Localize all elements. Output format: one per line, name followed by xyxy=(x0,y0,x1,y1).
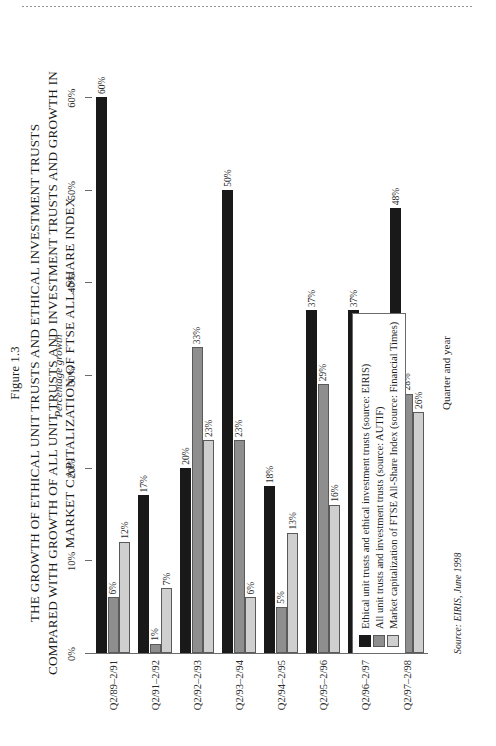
bar xyxy=(222,190,233,653)
legend-label: Ethical unit trusts and ethical investme… xyxy=(360,364,371,629)
bar-value-label: 29% xyxy=(318,364,328,381)
category-label: Q2/92–2/93 xyxy=(192,660,203,710)
figure-title-line-1: THE GROWTH OF ETHICAL UNIT TRUSTS AND ET… xyxy=(26,0,44,746)
bar-value-label: 37% xyxy=(349,290,359,307)
bar-value-label: 7% xyxy=(162,572,172,585)
axis-tick xyxy=(85,560,92,561)
bar-value-label: 6% xyxy=(246,582,256,595)
bar-group: Q2/89–2/9160%6%12% xyxy=(92,98,134,654)
bar xyxy=(276,607,287,653)
x-axis-label-text: Quarter and year xyxy=(440,336,452,410)
bar-group: Q2/91–2/9217%1%7% xyxy=(134,98,176,654)
bar xyxy=(108,597,119,653)
bar xyxy=(306,310,317,653)
legend-item: Ethical unit trusts and ethical investme… xyxy=(358,322,372,647)
bar xyxy=(287,533,298,653)
bar xyxy=(180,468,191,653)
bar-group: Q2/92–2/9320%33%23% xyxy=(176,98,218,654)
legend-label: All unit trusts and investment trusts (s… xyxy=(374,406,385,629)
bar-value-label: 26% xyxy=(414,392,424,409)
category-label: Q2/95–2/96 xyxy=(318,660,329,710)
bar-value-label: 16% xyxy=(330,484,340,501)
axis-tick xyxy=(85,190,92,191)
bar-value-label: 6% xyxy=(108,582,118,595)
category-label: Q2/94–2/95 xyxy=(276,660,287,710)
axis-tick-label: 0% xyxy=(66,647,77,661)
category-label: Q2/91–2/92 xyxy=(150,660,161,710)
category-label: Q2/96–2/97 xyxy=(360,660,371,710)
bar-value-label: 13% xyxy=(288,512,298,529)
bar-value-label: 12% xyxy=(120,521,130,538)
category-label: Q2/89–2/91 xyxy=(108,660,119,710)
bar-group: Q2/93–2/9450%23%6% xyxy=(218,98,260,654)
bar-value-label: 17% xyxy=(139,475,149,492)
bar-value-label: 60% xyxy=(97,77,107,94)
axis-tick xyxy=(85,375,92,376)
bar xyxy=(413,412,424,653)
bar xyxy=(138,495,149,653)
bar xyxy=(264,486,275,653)
bar xyxy=(329,505,340,653)
axis-tick xyxy=(85,282,92,283)
category-label: Q2/97–2/98 xyxy=(402,660,413,710)
legend-item: All unit trusts and investment trusts (s… xyxy=(372,322,386,647)
bar-value-label: 37% xyxy=(307,290,317,307)
bar-value-label: 23% xyxy=(234,419,244,436)
bar xyxy=(192,347,203,653)
axis-tick xyxy=(85,653,92,654)
bar xyxy=(203,440,214,653)
legend-swatch xyxy=(359,635,371,647)
bar-value-label: 20% xyxy=(181,447,191,464)
figure-page: Figure 1.3 THE GROWTH OF ETHICAL UNIT TR… xyxy=(0,0,496,746)
bar xyxy=(119,542,130,653)
figure-number: Figure 1.3 xyxy=(8,0,23,746)
bar-value-label: 50% xyxy=(223,169,233,186)
axis-tick-label: 20% xyxy=(66,459,77,478)
legend-item: Market capitalization of FTSE All-Share … xyxy=(386,322,400,647)
bar xyxy=(96,97,107,653)
bar-value-label: 18% xyxy=(265,466,275,483)
bar-value-label: 33% xyxy=(192,327,202,344)
bar xyxy=(150,644,161,653)
legend-label: Market capitalization of FTSE All-Share … xyxy=(388,322,399,629)
axis-tick-label: 30% xyxy=(66,366,77,385)
bar-value-label: 5% xyxy=(276,591,286,604)
bar xyxy=(318,384,329,653)
bar-group: Q2/95–2/9637%29%16% xyxy=(302,98,344,654)
x-axis-label: Quarter and year xyxy=(440,0,452,746)
axis-tick-label: 40% xyxy=(66,274,77,293)
axis-tick-label: 50% xyxy=(66,181,77,200)
legend-swatch xyxy=(387,635,399,647)
bar xyxy=(161,588,172,653)
legend-swatch xyxy=(373,635,385,647)
axis-tick xyxy=(85,97,92,98)
bar xyxy=(245,597,256,653)
axis-tick-label: 10% xyxy=(66,552,77,571)
bar xyxy=(234,440,245,653)
bar-value-label: 1% xyxy=(150,628,160,641)
category-label: Q2/93–2/94 xyxy=(234,660,245,710)
source-note: Source: EIRIS, June 1998 xyxy=(452,553,463,654)
chart-legend: Ethical unit trusts and ethical investme… xyxy=(352,313,406,654)
axis-tick xyxy=(85,468,92,469)
bar-group: Q2/94–2/9518%5%13% xyxy=(260,98,302,654)
bar-value-label: 48% xyxy=(391,188,401,205)
y-axis-label: Percentage growth xyxy=(52,98,64,654)
axis-tick-label: 60% xyxy=(66,88,77,107)
bar-value-label: 23% xyxy=(204,419,214,436)
rotated-figure-canvas: Figure 1.3 THE GROWTH OF ETHICAL UNIT TR… xyxy=(0,0,496,746)
